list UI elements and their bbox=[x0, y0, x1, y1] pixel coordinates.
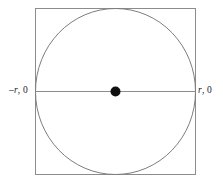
figure-canvas bbox=[0, 0, 223, 186]
geometry-figure: –r, 0 r, 0 bbox=[0, 0, 223, 186]
right-endpoint-label: r, 0 bbox=[198, 86, 212, 96]
right-label-coordinate: , 0 bbox=[202, 85, 212, 95]
left-label-coordinate: , 0 bbox=[18, 85, 28, 95]
left-endpoint-label: –r, 0 bbox=[9, 86, 28, 96]
center-point-dot bbox=[111, 87, 121, 97]
